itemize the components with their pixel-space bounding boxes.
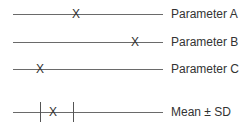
scale-line [13,14,163,15]
row-parameter-c: X Parameter C [0,59,249,79]
x-marker: X [36,61,44,77]
label-parameter-b: Parameter B [171,34,238,50]
row-mean-sd: X Mean ± SD [0,102,249,122]
x-marker: X [131,34,139,50]
row-parameter-b: X Parameter B [0,32,249,52]
x-marker: X [72,6,80,22]
x-marker: X [49,104,57,120]
scale-line [13,112,163,113]
label-mean-sd: Mean ± SD [171,104,231,120]
row-parameter-a: X Parameter A [0,4,249,24]
sd-high-tick [73,102,74,122]
sd-low-tick [40,102,41,122]
scale-line [13,42,163,43]
label-parameter-c: Parameter C [171,61,239,77]
label-parameter-a: Parameter A [171,6,238,22]
